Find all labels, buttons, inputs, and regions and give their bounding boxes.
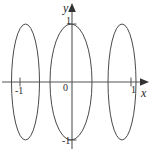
x-axis-arrowhead — [140, 78, 149, 86]
figure-container: -1 1 1 -1 0 x y — [0, 0, 154, 152]
x-axis-tick-label-positive-one: 1 — [131, 85, 136, 95]
x-axis-tick-label-negative-one: -1 — [15, 86, 23, 96]
plot-canvas — [0, 0, 154, 152]
origin-label: 0 — [63, 83, 68, 93]
y-axis-arrowhead — [68, 3, 76, 12]
y-axis-tick-label-positive-one: 1 — [66, 16, 71, 26]
x-axis-label: x — [141, 87, 146, 99]
y-axis-label: y — [63, 2, 68, 14]
y-axis-tick-label-negative-one: -1 — [62, 136, 70, 146]
